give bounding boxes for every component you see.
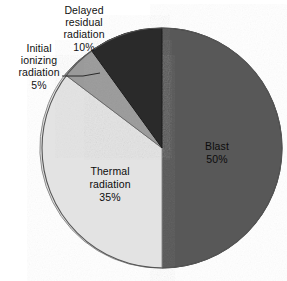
- pie-label-initial-ionizing-radiation: Initial ionizing radiation 5%: [4, 42, 74, 91]
- pie-label-blast: Blast 50%: [205, 140, 229, 165]
- pie-label-blast-value: 50%: [206, 153, 227, 165]
- pie-label-thermal-line2: radiation: [89, 178, 130, 190]
- pie-chart-figure: Blast 50% Thermal radiation 35% Delayed …: [0, 0, 287, 281]
- pie-label-thermal-value: 35%: [99, 191, 120, 203]
- pie-label-thermal-line1: Thermal: [90, 165, 129, 177]
- pie-label-blast-name: Blast: [205, 140, 229, 152]
